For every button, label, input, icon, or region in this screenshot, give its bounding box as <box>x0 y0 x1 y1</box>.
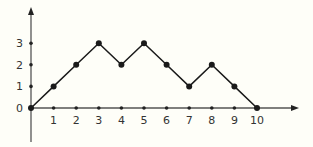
x-tick-mark <box>52 106 56 110</box>
data-point <box>254 105 260 111</box>
data-point <box>164 62 170 68</box>
x-tick-mark <box>233 106 237 110</box>
x-tick-mark <box>165 106 169 110</box>
series-line <box>31 43 257 108</box>
y-tick-mark <box>29 63 33 67</box>
y-tick-label: 1 <box>16 80 23 93</box>
data-point <box>73 62 79 68</box>
data-point <box>209 62 215 68</box>
y-tick-label: 0 <box>16 102 23 115</box>
data-point <box>186 83 192 89</box>
x-tick-label: 10 <box>250 114 264 127</box>
x-tick-label: 6 <box>163 114 170 127</box>
x-tick-label: 8 <box>208 114 215 127</box>
line-chart: 123456789100123 <box>0 0 313 147</box>
y-tick-mark <box>29 85 33 89</box>
x-tick-label: 5 <box>141 114 148 127</box>
data-point <box>96 40 102 46</box>
x-tick-mark <box>120 106 124 110</box>
x-tick-label: 4 <box>118 114 125 127</box>
data-points <box>28 40 260 111</box>
x-tick-mark <box>74 106 78 110</box>
x-tick-label: 3 <box>95 114 102 127</box>
x-tick-mark <box>142 106 146 110</box>
x-tick-mark <box>187 106 191 110</box>
data-point <box>118 62 124 68</box>
x-tick-label: 7 <box>186 114 193 127</box>
data-point <box>51 83 57 89</box>
data-point <box>231 83 237 89</box>
data-point <box>141 40 147 46</box>
y-tick-label: 2 <box>16 59 23 72</box>
y-tick-label: 3 <box>16 37 23 50</box>
x-tick-label: 2 <box>73 114 80 127</box>
data-point <box>28 105 34 111</box>
y-axis-arrow-icon <box>28 7 34 15</box>
y-tick-mark <box>29 41 33 45</box>
x-tick-mark <box>97 106 101 110</box>
data-line <box>31 43 257 108</box>
x-axis-arrow-icon <box>291 105 299 111</box>
x-tick-label: 9 <box>231 114 238 127</box>
x-tick-label: 1 <box>50 114 57 127</box>
ticks: 123456789100123 <box>16 37 264 127</box>
x-tick-mark <box>210 106 214 110</box>
